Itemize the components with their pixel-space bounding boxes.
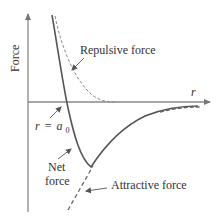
repulsive-force-pointer	[72, 58, 84, 70]
equilibrium-r: r	[35, 119, 40, 133]
y-axis-label: Force	[8, 45, 22, 72]
repulsive-force-label: Repulsive force	[80, 43, 156, 57]
force-diagram: Force r Repulsive force r = a 0 Net forc…	[0, 0, 224, 221]
attractive-force-pointer	[86, 188, 107, 191]
equilibrium-eq: =	[45, 119, 52, 133]
net-force-pointer	[58, 149, 71, 159]
net-force-label-line1: Net	[48, 160, 66, 174]
equilibrium-subscript: 0	[65, 126, 69, 135]
equilibrium-label: r = a 0	[35, 119, 69, 135]
equilibrium-pointer	[50, 107, 61, 118]
net-force-curve	[52, 15, 198, 167]
net-force-label-line2: force	[45, 174, 70, 188]
equilibrium-a: a	[56, 119, 62, 133]
attractive-force-curve	[68, 166, 93, 210]
x-axis-label: r	[191, 85, 196, 99]
attractive-force-label: Attractive force	[111, 178, 187, 192]
